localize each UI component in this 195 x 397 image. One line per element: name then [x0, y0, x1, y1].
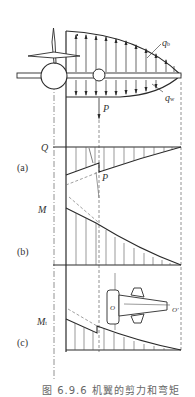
- section-o-prime-label: O': [172, 305, 179, 315]
- lift-arrows: [76, 35, 174, 72]
- q-lower-label: qw: [165, 93, 174, 104]
- bending-moment-diagram: [53, 208, 181, 265]
- shear-axis-label: Q: [41, 143, 48, 153]
- torsion-moment-diagram: [66, 273, 181, 350]
- bending-axis-label: M: [38, 205, 46, 215]
- q-upper-label: qb: [162, 38, 170, 49]
- force-p-label: P: [103, 104, 109, 114]
- shear-p-label: P: [102, 173, 108, 183]
- panel-c-label: (c): [17, 338, 28, 348]
- horizontal-tail: [28, 52, 80, 58]
- panel-a-label: (a): [17, 163, 28, 173]
- section-o-label: O: [110, 303, 115, 313]
- engine-nacelle: [93, 69, 105, 81]
- torsion-axis-label: Mt: [37, 317, 47, 328]
- fuselage: [41, 63, 67, 89]
- panel-b-label: (b): [17, 247, 29, 257]
- wing-section-sketch: [107, 273, 170, 330]
- figure-caption: 图 6.9.6 机翼的剪力和弯矩: [42, 382, 180, 397]
